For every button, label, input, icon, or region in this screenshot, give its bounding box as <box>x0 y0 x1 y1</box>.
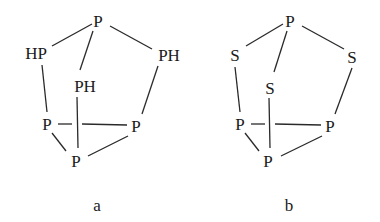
bond-top-leftupper <box>246 24 283 46</box>
bond-top-middle <box>80 31 93 70</box>
bond-top-middle <box>274 31 287 72</box>
bond-bottom-rightlower <box>281 136 322 156</box>
diagram-canvas: P HP PH PH P P P a P S S S P P P b <box>0 0 380 222</box>
bond-leftlower-bottom <box>245 133 259 151</box>
bond-middle-bottom <box>269 98 270 148</box>
bond-bottom-rightlower <box>88 136 128 156</box>
bond-leftupper-leftlower <box>235 67 240 112</box>
atom-a-left-lower: P <box>42 115 51 134</box>
atom-b-left-lower: P <box>235 115 244 134</box>
atom-a-right-upper: PH <box>158 46 180 65</box>
bond-leftupper-leftlower <box>42 65 47 112</box>
caption-b: b <box>285 196 294 215</box>
atom-a-middle: PH <box>74 77 96 96</box>
atom-b-bottom: P <box>263 152 272 171</box>
bond-top-rightupper <box>302 26 344 49</box>
bond-rightupper-rightlower <box>142 66 158 114</box>
bond-rightupper-rightlower <box>335 68 352 114</box>
bond-middle-bottom <box>77 97 78 148</box>
atom-a-bottom: P <box>71 152 80 171</box>
atom-b-right-lower: P <box>325 117 334 136</box>
atom-b-top: P <box>285 12 294 31</box>
atom-b-left-upper: S <box>230 46 239 65</box>
bond-leftlower-rightlower-part2 <box>275 124 321 125</box>
caption-a: a <box>93 196 101 215</box>
structure-a: P HP PH PH P P P a <box>25 12 180 215</box>
bond-top-leftupper <box>52 24 92 46</box>
atom-b-middle: S <box>265 79 274 98</box>
atom-a-left-upper: HP <box>25 44 47 63</box>
bond-top-rightupper <box>110 26 152 49</box>
bond-leftlower-bottom <box>52 133 66 151</box>
atom-a-right-lower: P <box>131 117 140 136</box>
structure-b: P S S S P P P b <box>230 12 356 215</box>
bond-leftlower-rightlower-part2 <box>82 124 127 125</box>
atom-b-right-upper: S <box>347 48 356 67</box>
atom-a-top: P <box>93 12 102 31</box>
